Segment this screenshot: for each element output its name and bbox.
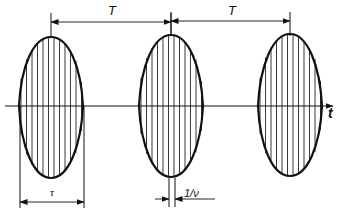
- dimension-lines: [20, 12, 290, 208]
- pulse-train-diagram: T T t τ 1/ν: [0, 0, 337, 214]
- pulse-envelope-lower-3: [258, 106, 322, 176]
- period-label-1: T: [108, 4, 116, 17]
- pulse-duration-label: τ: [50, 187, 54, 198]
- diagram-canvas: [0, 0, 337, 214]
- time-axis-label: t: [328, 106, 333, 120]
- pulse-envelope-upper-1: [19, 37, 83, 106]
- pulse-envelope-lower-1: [19, 106, 83, 178]
- pulse-envelope-upper-3: [258, 34, 322, 106]
- pulse-envelope-lower-2: [139, 106, 203, 177]
- pulse-envelope-upper-2: [139, 35, 203, 106]
- period-label-2: T: [228, 4, 236, 17]
- carrier-period-label: 1/ν: [184, 188, 199, 199]
